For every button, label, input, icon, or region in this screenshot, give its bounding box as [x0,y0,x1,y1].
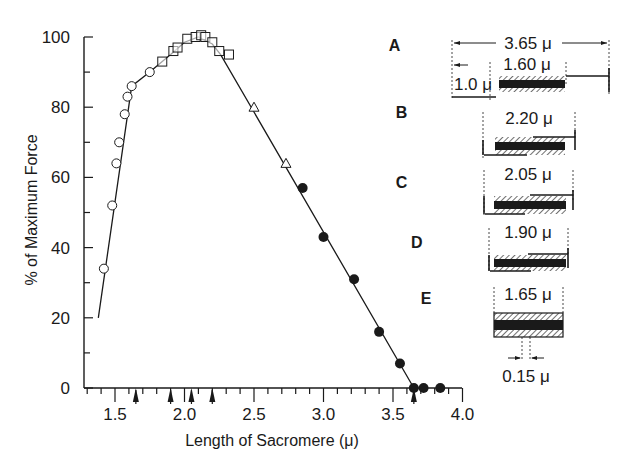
data-point-circle-filled [374,327,384,337]
data-point-square-open [215,47,224,56]
data-point-circle-filled [395,358,405,368]
diagram-b-label: 2.20 μ [505,109,553,128]
x-tick-label: 2.0 [173,405,197,424]
region-label-c: C [396,174,408,191]
y-tick-label: 60 [51,168,70,187]
y-tick-label: 20 [51,309,70,328]
x-tick-label: 3.0 [312,405,336,424]
x-tick-label: 1.5 [103,405,127,424]
x-axis-title: Length of Sacromere (μ) [185,432,359,449]
data-point-square-open [224,50,233,59]
region-label-e: E [421,290,432,307]
data-point-square-open [183,34,192,43]
data-point-circle-open [112,159,121,168]
data-point-triangle-open [281,158,291,167]
diagram-e-label-gap: 0.15 μ [502,367,550,386]
y-tick-label: 100 [42,28,70,47]
diagram-a-label-total: 3.65 μ [504,34,552,53]
data-point-square-open [208,38,217,47]
data-point-circle-open [120,110,129,119]
y-axis-title: % of Maximum Force [23,134,40,285]
region-labels: ABCDE [389,37,432,307]
x-tick-label: 4.0 [451,405,475,424]
diagram-c-label: 2.05 μ [504,165,552,184]
y-tick-label: 80 [51,98,70,117]
data-point-square-open [158,57,167,66]
fit-line [98,37,414,388]
data-point-circle-filled [298,183,308,193]
x-axis-arrows [133,388,417,404]
y-tick-label: 40 [51,239,70,258]
data-point-square-open [173,43,182,52]
diagram-e-label-length: 1.65 μ [504,285,552,304]
data-point-circle-filled [319,232,329,242]
axes [84,37,462,388]
region-label-a: A [389,37,401,54]
data-point-circle-open [145,68,154,77]
data-point-circle-open [127,82,136,91]
x-ticks: 1.52.02.53.03.54.0 [87,388,474,424]
data-points [99,31,445,393]
data-point-circle-filled [435,383,445,393]
y-ticks: 020406080100 [42,28,93,398]
x-tick-label: 3.5 [381,405,405,424]
force-length-chart: 020406080100 1.52.02.53.03.54.0 Length o… [0,0,625,475]
region-label-d: D [411,234,423,251]
data-point-circle-open [99,264,108,273]
data-point-circle-open [115,138,124,147]
region-label-b: B [396,104,408,121]
diagram-a-label-thick: 1.60 μ [503,55,551,74]
data-point-circle-filled [349,274,359,284]
diagram-d-label: 1.90 μ [504,223,552,242]
data-point-circle-open [108,201,117,210]
data-point-circle-open [123,92,132,101]
diagram-a-label-thin: 1.0 μ [454,75,492,94]
data-point-circle-filled [409,383,419,393]
y-tick-label: 0 [61,379,70,398]
x-tick-label: 2.5 [242,405,266,424]
data-point-circle-filled [419,383,429,393]
